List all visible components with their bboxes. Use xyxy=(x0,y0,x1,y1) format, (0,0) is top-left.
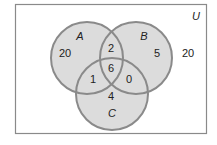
region-b-only: 5 xyxy=(154,47,160,59)
set-b-label: B xyxy=(140,30,147,42)
region-b-and-c: 0 xyxy=(126,73,132,85)
region-a-only: 20 xyxy=(59,47,71,59)
region-a-and-b: 2 xyxy=(108,42,114,54)
region-a-b-c: 6 xyxy=(108,62,114,74)
universe-label: U xyxy=(192,10,200,22)
venn-diagram: U A B C 20 5 20 2 6 1 0 4 xyxy=(0,0,217,145)
region-a-and-c: 1 xyxy=(90,73,96,85)
region-outside: 20 xyxy=(182,47,194,59)
set-c-label: C xyxy=(108,107,116,119)
set-a-label: A xyxy=(75,30,83,42)
region-c-only: 4 xyxy=(108,90,114,102)
